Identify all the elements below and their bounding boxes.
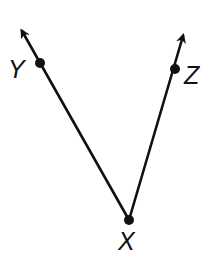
ray-xz bbox=[129, 36, 183, 220]
point-y bbox=[35, 58, 45, 68]
point-x-label: X bbox=[118, 229, 135, 254]
point-z-label: Z bbox=[184, 63, 199, 88]
point-y-label: Y bbox=[8, 57, 25, 82]
angle-diagram bbox=[0, 0, 215, 263]
point-x-vertex bbox=[124, 215, 134, 225]
point-z bbox=[170, 64, 180, 74]
